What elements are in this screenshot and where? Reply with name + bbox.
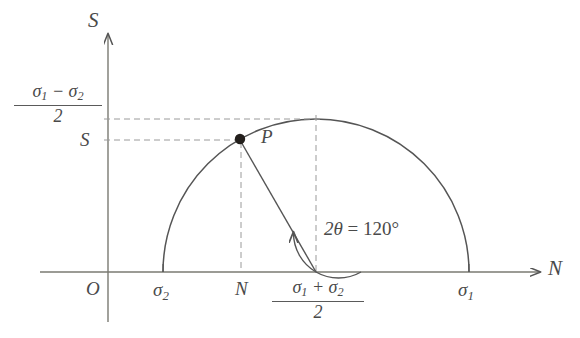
sigma2-base: σ (153, 279, 162, 300)
max-shear-num-a-sub: 1 (41, 89, 47, 103)
angle-annotation-label: 2θ = 120° (324, 219, 399, 238)
sigma1-subscript: 1 (467, 288, 473, 303)
degree-icon: ° (392, 218, 400, 239)
max-shear-fraction-label: σ1 − σ2 2 (14, 82, 102, 126)
center-num-b-sub: 2 (337, 285, 343, 299)
max-shear-num-b-sub: 2 (77, 89, 83, 103)
max-shear-num-a: σ (32, 81, 41, 101)
n-axis-label: N (548, 258, 562, 279)
center-denominator: 2 (272, 303, 364, 322)
minus-sign-icon: − (52, 81, 64, 101)
point-p-marker (235, 134, 245, 144)
max-shear-denominator: 2 (14, 107, 102, 126)
radius-line-to-p (240, 140, 316, 272)
sigma1-tick-label: σ1 (458, 280, 474, 303)
sigma2-subscript: 2 (162, 288, 168, 303)
max-shear-numerator: σ1 − σ2 (14, 82, 102, 104)
angle-equals: = (348, 218, 359, 239)
center-num-a-sub: 1 (301, 285, 307, 299)
n-value-tick-label: N (235, 279, 248, 298)
origin-label: O (86, 279, 100, 298)
sigma1-base: σ (458, 279, 467, 300)
center-numerator: σ1 + σ2 (272, 278, 364, 300)
sigma2-tick-label: σ2 (153, 280, 169, 303)
center-num-a: σ (292, 277, 301, 297)
s-value-tick-label: S (80, 130, 90, 149)
angle-arc (294, 233, 362, 278)
plus-sign-icon: + (312, 277, 324, 297)
mohr-circle-figure: S N O σ2 N σ1 S P 2θ = 120° σ1 − σ2 2 σ1… (0, 0, 580, 338)
point-p-label: P (261, 127, 273, 146)
s-axis-label: S (88, 10, 99, 31)
angle-value: 120 (363, 218, 392, 239)
angle-symbol: 2θ (324, 218, 343, 239)
center-value-fraction-label: σ1 + σ2 2 (272, 278, 364, 322)
